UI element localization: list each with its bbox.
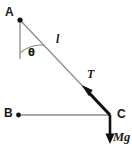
- pendulum-diagram: A B C l T Mg θ: [0, 0, 132, 149]
- point-a-label: A: [5, 6, 14, 18]
- length-label: l: [56, 33, 59, 45]
- angle-label: θ: [28, 48, 35, 58]
- point-b-label: B: [4, 107, 13, 119]
- tension-vector: [82, 85, 111, 115]
- diagram-canvas: [0, 0, 132, 149]
- point-b-dot: [16, 113, 21, 118]
- tension-shaft: [89, 92, 111, 115]
- point-c-label: C: [117, 108, 126, 120]
- weight-label: Mg: [113, 131, 130, 144]
- tension-label: T: [87, 68, 94, 80]
- point-a-dot: [17, 17, 22, 22]
